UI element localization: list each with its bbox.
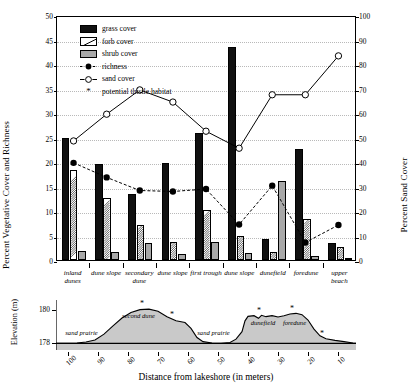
y-tick-mark-left [54,140,58,141]
y-tick-mark-right [355,66,359,67]
terrain-label: foredune [271,319,319,326]
gridline [57,115,355,116]
x-tick-label: 10 [335,355,347,367]
elevation-tick-label: 180 [22,306,50,313]
category-labels: inland dunesdune slopesecondary dunedune… [56,263,356,287]
bar-shrub-cover-0 [78,251,86,260]
y-tick-mark-right [355,17,359,18]
asterisk-icon: * [80,87,97,96]
category-separator [189,263,190,268]
thistle-habitat-star: * [140,300,144,308]
category-label-6: dunefield [256,270,289,278]
y-tick-mark-left [54,213,58,214]
hatch-pattern [338,248,344,259]
x-axis-title: Distance from lakeshore (in meters) [56,372,356,382]
y-tick-label-left: 15 [46,185,53,192]
y-tick-label-right: 80 [359,62,366,69]
x-tick-label: 70 [155,355,167,367]
y-tick-label-right: 30 [359,185,366,192]
y-tick-label-right: 90 [359,38,366,45]
x-tick-label: 80 [125,355,137,367]
richness-point-5 [236,221,242,227]
bar-forb-cover-6 [270,252,278,260]
bar-shrub-cover-4 [211,242,219,260]
terrain-label: sand prairie [190,329,238,336]
category-separator [289,263,290,268]
sand-cover-marker-icon [80,75,97,84]
x-tick-label: 90 [95,355,107,367]
category-label-2: secondary dune [123,270,156,286]
bar-grass-cover-3 [162,163,170,260]
terrain-label: sand prairie [58,329,106,336]
hatch-pattern [304,220,310,259]
category-label-7: foredune [289,270,322,278]
legend-item-shrub-cover: shrub cover [80,48,172,60]
shrub-swatch-icon [80,50,97,59]
x-tick-label: 100 [64,353,78,367]
elevation-tick-mark [52,310,56,311]
category-separator [323,263,324,268]
bar-shrub-cover-7 [311,256,319,260]
legend-item-grass-cover: grass cover [80,23,172,35]
category-label-0: inland dunes [56,270,89,286]
bar-grass-cover-6 [262,239,270,260]
elevation-tick-label: 178 [22,339,50,346]
sand-cover-point-4 [203,128,209,134]
y-tick-label-left: 0 [49,258,53,265]
y-tick-mark-left [54,17,58,18]
bar-grass-cover-2 [128,194,136,260]
hatch-pattern [138,226,144,259]
hatch-pattern [204,211,210,259]
y-tick-mark-left [54,42,58,43]
legend-label: shrub cover [102,48,138,60]
y-tick-label-left: 35 [46,87,53,94]
y-tick-label-right: 0 [359,258,363,265]
legend-item-richness: richness [80,61,172,73]
y-tick-mark-right [355,213,359,214]
bar-grass-cover-5 [228,47,236,260]
bar-forb-cover-0 [70,170,78,260]
bar-grass-cover-0 [62,138,70,261]
thistle-habitat-star: * [290,305,294,313]
bar-grass-cover-7 [295,149,303,260]
y-tick-label-right: 10 [359,234,366,241]
y-tick-label-left: 50 [46,13,53,20]
bar-shrub-cover-8 [345,258,353,260]
legend-item-thistle-habitat: * potential thistle habitat [80,86,172,98]
bar-shrub-cover-2 [145,243,153,260]
y-tick-mark-right [355,91,359,92]
sand-cover-point-6 [269,92,275,98]
y-tick-label-right: 70 [359,87,366,94]
legend: grass cover forb cover shrub cover [80,23,172,99]
hatch-pattern [71,171,77,259]
y-tick-label-right: 100 [359,13,370,20]
y-tick-label-left: 20 [46,160,53,167]
category-label-1: dune slope [89,270,122,278]
hatch-pattern [104,199,110,259]
y-axis-label-left: Percent Vegetative Cover and Richness [1,121,11,269]
legend-label: potential thistle habitat [102,86,172,98]
bar-shrub-cover-6 [278,181,286,260]
richness-marker-icon [80,62,97,71]
legend-label: forb cover [102,36,133,48]
category-separator [123,263,124,268]
thistle-habitat-star: * [170,311,174,319]
y-tick-label-right: 50 [359,136,366,143]
y-tick-label-left: 40 [46,62,53,69]
terrain-label: second dune [115,312,163,319]
bar-forb-cover-1 [103,198,111,260]
y-tick-mark-left [54,91,58,92]
y-tick-mark-right [355,238,359,239]
category-label-4: first trough [189,270,222,278]
richness-point-0 [70,160,76,166]
legend-label: richness [102,61,127,73]
figure-root: Percent Vegetative Cover and Richness Pe… [0,0,417,389]
thistle-habitat-star: * [257,307,261,315]
category-label-8: upper beach [323,270,356,286]
bar-shrub-cover-3 [178,254,186,260]
category-separator [256,263,257,268]
bar-forb-cover-4 [203,210,211,260]
bar-shrub-cover-5 [245,253,253,260]
y-tick-mark-left [54,189,58,190]
y-tick-label-right: 60 [359,111,366,118]
